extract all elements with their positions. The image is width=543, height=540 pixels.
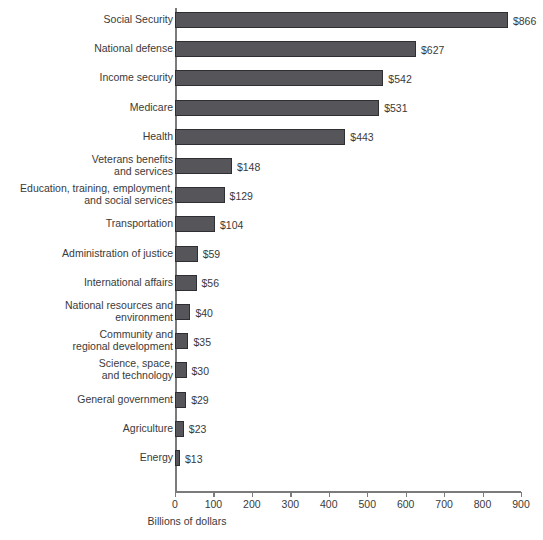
bar-value-label: $866	[513, 15, 536, 27]
bar-value-label: $30	[192, 365, 210, 377]
x-axis-tick	[252, 492, 253, 497]
x-axis-line	[175, 491, 521, 493]
bar-chart: Social Security$866National defense$627I…	[0, 0, 543, 540]
x-axis-tick-label: 300	[282, 498, 300, 510]
bar-value-label: $59	[203, 248, 221, 260]
bar	[175, 41, 416, 57]
x-axis-tick	[329, 492, 330, 497]
x-axis-tick-label: 500	[358, 498, 376, 510]
x-axis-tick-label: 100	[205, 498, 223, 510]
x-axis-tick-label: 200	[243, 498, 261, 510]
bar	[175, 187, 225, 203]
x-axis-tick	[406, 492, 407, 497]
bar-value-label: $443	[350, 131, 373, 143]
bar-category-label: Veterans benefits and services	[0, 153, 173, 177]
x-axis-tick-label: 600	[397, 498, 415, 510]
x-axis-tick-label: 800	[474, 498, 492, 510]
bar-value-label: $104	[220, 219, 243, 231]
bar	[175, 392, 186, 408]
bar	[175, 275, 197, 291]
bar-value-label: $148	[237, 161, 260, 173]
bar-category-label: International affairs	[0, 276, 173, 288]
bar-value-label: $542	[388, 73, 411, 85]
bar-category-label: Education, training, employment, and soc…	[0, 182, 173, 206]
bar-category-label: National resources and environment	[0, 299, 173, 323]
bar	[175, 100, 379, 116]
bar-value-label: $129	[230, 190, 253, 202]
bar	[175, 450, 180, 466]
bar	[175, 304, 190, 320]
bar-category-label: Medicare	[0, 101, 173, 113]
bar-category-label: Transportation	[0, 217, 173, 229]
x-axis-tick-label: 0	[172, 498, 178, 510]
x-axis-tick	[213, 492, 214, 497]
bar	[175, 70, 383, 86]
x-axis-title: Billions of dollars	[0, 515, 543, 527]
x-axis-tick	[444, 492, 445, 497]
plot-area: Social Security$866National defense$627I…	[0, 0, 543, 540]
bar	[175, 216, 215, 232]
bar-category-label: Community and regional development	[0, 328, 173, 352]
bar-category-label: Social Security	[0, 13, 173, 25]
bar-value-label: $56	[202, 277, 220, 289]
bar-category-label: Administration of justice	[0, 247, 173, 259]
bar-category-label: Science, space, and technology	[0, 357, 173, 381]
x-axis-title-text: Billions of dollars	[148, 515, 227, 527]
bar	[175, 421, 184, 437]
bar-category-label: Agriculture	[0, 422, 173, 434]
x-axis-tick	[521, 492, 522, 497]
bar-category-label: General government	[0, 393, 173, 405]
bar-category-label: Health	[0, 130, 173, 142]
x-axis-tick-label: 700	[435, 498, 453, 510]
bar	[175, 129, 345, 145]
bar	[175, 12, 508, 28]
bar-category-label: Energy	[0, 451, 173, 463]
bar-value-label: $23	[189, 423, 207, 435]
bar-value-label: $40	[195, 307, 213, 319]
bar-value-label: $531	[384, 102, 407, 114]
bar-value-label: $29	[191, 394, 209, 406]
bar-value-label: $13	[185, 453, 203, 465]
bar	[175, 246, 198, 262]
bar-category-label: National defense	[0, 42, 173, 54]
x-axis-tick-label: 900	[512, 498, 530, 510]
bar-value-label: $627	[421, 44, 444, 56]
bar-value-label: $35	[193, 336, 211, 348]
bar	[175, 333, 188, 349]
x-axis-tick	[483, 492, 484, 497]
bar	[175, 158, 232, 174]
x-axis-tick	[367, 492, 368, 497]
x-axis-tick-label: 400	[320, 498, 338, 510]
bar	[175, 362, 187, 378]
x-axis-tick	[290, 492, 291, 497]
bar-category-label: Income security	[0, 71, 173, 83]
x-axis-tick	[175, 492, 176, 497]
